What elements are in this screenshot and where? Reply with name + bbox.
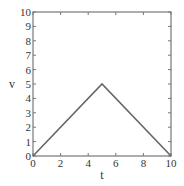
y-tick-label: 5	[26, 78, 32, 90]
y-tick-label: 2	[26, 121, 32, 133]
x-tick-label: 0	[30, 157, 36, 169]
x-axis-ticks: 0246810	[30, 12, 177, 169]
series-line	[33, 84, 171, 156]
y-tick-label: 9	[26, 20, 32, 32]
y-tick-label: 0	[26, 150, 32, 162]
y-axis-ticks: 012345678910	[20, 6, 171, 162]
y-tick-label: 6	[26, 64, 32, 76]
y-tick-label: 3	[26, 107, 32, 119]
x-tick-label: 10	[166, 157, 178, 169]
y-tick-label: 10	[20, 6, 32, 18]
data-series	[33, 84, 171, 156]
x-tick-label: 4	[85, 157, 91, 169]
x-tick-label: 2	[58, 157, 64, 169]
x-axis-label: t	[100, 168, 104, 182]
y-tick-label: 4	[26, 92, 32, 104]
x-tick-label: 8	[141, 157, 147, 169]
x-tick-label: 6	[113, 157, 119, 169]
y-tick-label: 7	[26, 49, 32, 61]
y-axis-label: v	[9, 77, 15, 91]
y-tick-label: 8	[26, 35, 32, 47]
line-chart: 0246810 012345678910 t v	[0, 0, 184, 186]
y-tick-label: 1	[26, 136, 32, 148]
